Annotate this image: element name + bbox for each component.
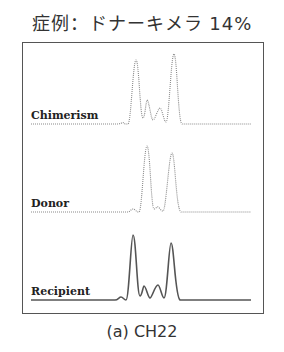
trace-chimerism: Chimerism [31, 54, 251, 124]
trace-label-donor: Donor [31, 197, 69, 210]
trace-recipient: Recipient [31, 235, 251, 300]
figure-caption: (a) CH22 [0, 322, 284, 341]
electropherogram-plot: Chimerism Donor Recipient [0, 0, 284, 352]
trace-label-chimerism: Chimerism [31, 109, 99, 122]
trace-label-recipient: Recipient [31, 285, 91, 298]
trace-donor: Donor [31, 146, 251, 212]
